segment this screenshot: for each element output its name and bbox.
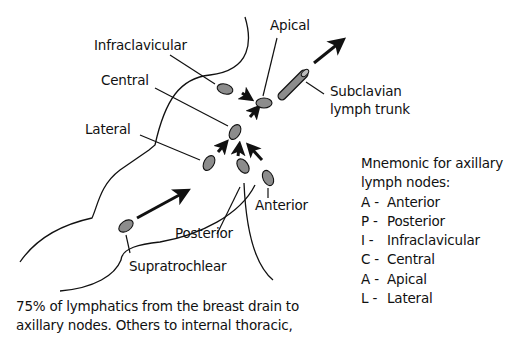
label-lateral: Lateral [85,121,131,137]
label-central: Central [101,72,149,88]
subclavian-trunk [282,68,310,96]
mnemonic-item: A -Apical [361,270,503,289]
node-lateral [201,154,218,173]
node-apical [256,98,272,108]
leader-lines [126,38,324,253]
mnemonic-item: P -Posterior [361,212,503,231]
label-supratrochlear: Supratrochlear [129,258,226,274]
mnemonic-title-line1: Mnemonic for axillary [361,154,503,173]
mnemonic-box: Mnemonic for axillary lymph nodes: A -An… [361,154,503,308]
mnemonic-item: C -Central [361,250,503,269]
label-apical: Apical [270,17,310,33]
mnemonic-item: I -Infraclavicular [361,231,503,250]
node-posterior [234,157,251,176]
mnemonic-title-line2: lymph nodes: [361,173,503,192]
node-infraclavicular [216,82,234,96]
arm-outline [20,17,273,291]
label-posterior: Posterior [175,225,233,241]
node-anterior [260,169,276,188]
node-supratrochlear [117,217,136,234]
label-subclavian-line2: lymph trunk [330,101,410,117]
label-subclavian-line1: Subclavian [330,83,402,99]
mnemonic-item: L -Lateral [361,289,503,308]
label-infraclavicular: Infraclavicular [94,37,187,53]
footer-caption: 75% of lymphatics from the breast drain … [16,297,299,335]
node-central [227,123,244,142]
label-anterior: Anterior [255,197,308,213]
footer-line1: 75% of lymphatics from the breast drain … [16,297,299,316]
footer-line2: axillary nodes. Others to internal thora… [16,316,299,335]
mnemonic-item: A -Anterior [361,193,503,212]
